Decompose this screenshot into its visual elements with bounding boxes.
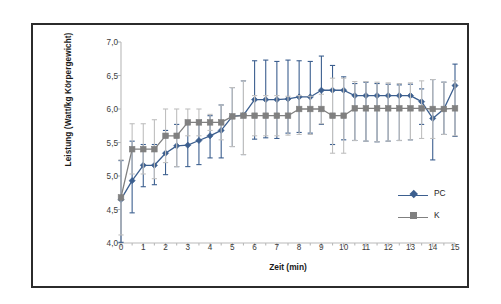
x-axis-title: Zeit (min): [118, 262, 458, 272]
x-axis-tick-label: 0: [109, 243, 133, 252]
marker-square: [263, 113, 269, 119]
x-axis-tick-labels: 0123456789101112131415: [0, 243, 501, 257]
y-axis-title: Leistung (Watt/kg Körpergewicht): [64, 5, 73, 195]
x-axis-tick-label: 1: [131, 243, 155, 252]
marker-square: [218, 120, 224, 126]
marker-square: [307, 106, 313, 112]
marker-square: [363, 106, 369, 112]
marker-square: [241, 113, 247, 119]
marker-square: [452, 106, 458, 112]
x-axis-tick-label: 6: [243, 243, 267, 252]
x-axis-tick-label: 8: [287, 243, 311, 252]
marker-square: [408, 106, 414, 112]
marker-square: [296, 106, 302, 112]
y-axis-tick-labels: 4,04,55,05,56,06,57,0: [92, 0, 118, 304]
marker-square: [397, 106, 403, 112]
y-axis-tick-label: 5,5: [92, 138, 118, 147]
marker-square: [319, 106, 325, 112]
marker-square: [230, 114, 236, 120]
legend-marker-square-icon: [410, 212, 417, 219]
x-axis-tick-label: 4: [198, 243, 222, 252]
marker-square: [152, 146, 158, 152]
x-axis-tick-label: 13: [398, 243, 422, 252]
y-axis-tick-label: 7,0: [92, 38, 118, 47]
marker-square: [341, 113, 347, 119]
marker-diamond: [318, 87, 324, 93]
marker-square: [385, 106, 391, 112]
x-axis-tick-label: 12: [376, 243, 400, 252]
x-axis-tick-label: 7: [265, 243, 289, 252]
marker-square: [163, 133, 169, 139]
x-axis-tick-label: 3: [176, 243, 200, 252]
marker-square: [207, 120, 213, 126]
x-axis-tick-label: 2: [154, 243, 178, 252]
legend-label-pc: PC: [434, 188, 446, 198]
marker-square: [419, 106, 425, 112]
marker-square: [129, 146, 135, 152]
legend-item-k: K: [398, 207, 468, 229]
marker-square: [441, 106, 447, 112]
marker-square: [430, 106, 436, 112]
marker-square: [185, 120, 191, 126]
marker-square: [330, 113, 336, 119]
legend-label-k: K: [434, 210, 440, 220]
marker-square: [118, 195, 124, 201]
marker-square: [140, 146, 146, 152]
marker-diamond: [185, 142, 191, 148]
marker-square: [174, 133, 180, 139]
marker-square: [252, 113, 258, 119]
x-axis-tick-label: 11: [354, 243, 378, 252]
y-axis-tick-label: 4,5: [92, 205, 118, 214]
y-axis-tick-label: 6,0: [92, 105, 118, 114]
x-axis-tick-label: 14: [421, 243, 445, 252]
x-axis-tick-label: 15: [443, 243, 467, 252]
x-axis-tick-label: 5: [220, 243, 244, 252]
chart-legend: PC K: [398, 185, 468, 229]
marker-diamond: [207, 133, 213, 139]
chart-figure: 4,04,55,05,56,06,57,0 012345678910111213…: [0, 0, 501, 304]
marker-square: [285, 113, 291, 119]
marker-square: [274, 113, 280, 119]
chart-plot-area: [0, 0, 501, 304]
y-axis-tick-label: 6,5: [92, 71, 118, 80]
marker-square: [374, 106, 380, 112]
marker-square: [352, 106, 358, 112]
y-axis-tick-label: 5,0: [92, 172, 118, 181]
x-axis-tick-label: 9: [309, 243, 333, 252]
legend-marker-diamond-icon: [409, 190, 417, 198]
x-axis-tick-label: 10: [332, 243, 356, 252]
marker-square: [196, 120, 202, 126]
marker-diamond: [196, 137, 202, 143]
legend-item-pc: PC: [398, 185, 468, 207]
